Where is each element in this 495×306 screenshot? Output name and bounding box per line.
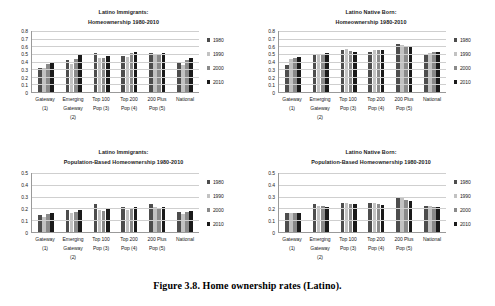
bar-group (335, 173, 363, 232)
bar-2010 (297, 213, 301, 232)
gridline (279, 54, 446, 55)
bar-2010 (189, 58, 193, 92)
chart-title: Latino Native Born: Homeownership 1980-2… (247, 0, 495, 27)
bar-2010 (353, 52, 357, 92)
gridline (279, 31, 446, 32)
bar-2000 (293, 58, 297, 92)
x-axis: Gateway(1)EmergingGateway(2)Top 100Pop (… (278, 235, 446, 261)
gridline (32, 220, 199, 221)
gridline (32, 39, 199, 40)
legend-item-1980: 1980 (454, 175, 494, 189)
legend-swatch-icon (207, 208, 210, 211)
y-axis-tick-label: 0.4 (268, 59, 275, 65)
chart-panel-latino-native-born-population-based: Latino Native Born: Population-Based Hom… (247, 140, 495, 278)
gridline (32, 69, 199, 70)
y-axis-tick-label: 0.2 (268, 75, 275, 81)
charts-grid: Latino Immigrants: Homeownership 1980-20… (0, 0, 495, 278)
x-axis-label-line: Gateway (31, 235, 59, 244)
bar-1990 (428, 206, 432, 232)
chart-title-line-2: Homeownership 1980-2010 (247, 17, 495, 27)
x-axis-label-line: (1) (278, 244, 306, 253)
x-axis-category-label: Gateway(1) (278, 235, 306, 261)
gridline (279, 77, 446, 78)
legend-swatch-icon (454, 194, 457, 197)
bar-1990 (345, 49, 349, 92)
plot-area (278, 31, 446, 93)
bar-1980 (38, 215, 42, 232)
x-axis-category-label: Top 200Pop (4) (115, 235, 143, 261)
gridline (279, 39, 446, 40)
bar-2000 (46, 64, 50, 92)
legend-swatch-icon (454, 80, 457, 83)
legend-item-1990: 1990 (207, 47, 247, 61)
plot-area (31, 31, 199, 93)
x-axis-label-line: (2) (306, 113, 334, 122)
chart-title: Latino Immigrants: Population-Based Home… (0, 140, 247, 167)
bar-1980 (313, 54, 317, 92)
bar-2010 (409, 201, 413, 232)
legend-swatch-icon (207, 180, 210, 183)
x-axis-category-label: Top 200Pop (4) (115, 95, 143, 121)
x-axis-label-line: Emerging (306, 235, 334, 244)
x-axis-label-line: Pop (5) (143, 244, 171, 253)
y-axis-tick-label: 0.5 (21, 170, 28, 176)
x-axis-label-line: Pop (4) (115, 104, 143, 113)
bars-area (279, 173, 446, 232)
legend-label: 1980 (213, 179, 224, 185)
bar-group (88, 173, 116, 232)
y-axis-tick-label: 0.1 (268, 218, 275, 224)
legend-swatch-icon (207, 80, 210, 83)
gridline (32, 197, 199, 198)
bar-1990 (428, 53, 432, 92)
gridline (32, 208, 199, 209)
gridline (32, 185, 199, 186)
x-axis-category-label: Gateway(1) (278, 95, 306, 121)
x-axis-category-label: Top 100Pop (3) (87, 235, 115, 261)
y-axis-tick-label: 0.4 (268, 182, 275, 188)
x-axis-category-label: 200 PlusPop (5) (390, 235, 418, 261)
legend-swatch-icon (454, 66, 457, 69)
y-axis: 0.80.70.60.50.40.30.20.10 (259, 31, 277, 93)
y-axis-tick-label: 0.6 (268, 44, 275, 50)
y-axis-tick-label: 0.7 (268, 36, 275, 42)
bar-group (115, 173, 143, 232)
legend-label: 2000 (213, 207, 224, 213)
legend-swatch-icon (207, 52, 210, 55)
x-axis-label-line: National (171, 95, 199, 104)
legend-label: 1990 (213, 193, 224, 199)
bar-1990 (70, 213, 74, 232)
bar-2010 (50, 213, 54, 232)
y-axis-tick-label: 0.7 (21, 36, 28, 42)
gridline (279, 84, 446, 85)
legend-label: 1990 (460, 193, 471, 199)
x-axis-category-label: Top 100Pop (3) (87, 95, 115, 121)
y-axis: 0.50.40.30.20.10 (12, 173, 30, 233)
y-axis-tick-label: 0.3 (268, 194, 275, 200)
x-axis-label-line: Top 100 (334, 235, 362, 244)
legend-label: 2010 (460, 79, 471, 85)
x-axis-category-label: 200 PlusPop (5) (143, 235, 171, 261)
x-axis-label-line: Pop (5) (390, 104, 418, 113)
x-axis-label-line: Emerging (59, 235, 87, 244)
bar-1980 (341, 203, 345, 233)
chart-title-line-1: Latino Native Born: (247, 7, 495, 17)
x-axis-label-line: Gateway (59, 104, 87, 113)
bar-1990 (317, 206, 321, 232)
bar-group (418, 173, 446, 232)
bar-2010 (162, 53, 166, 92)
bar-1990 (42, 217, 46, 232)
gridline (32, 54, 199, 55)
x-axis-label-line: National (171, 235, 199, 244)
bar-1980 (368, 52, 372, 92)
gridline (32, 77, 199, 78)
bar-2000 (130, 53, 134, 92)
y-axis-tick-label: 0.3 (21, 194, 28, 200)
x-axis-label-line: Pop (3) (87, 244, 115, 253)
gridline (32, 173, 199, 174)
x-axis-category-label: National (418, 235, 446, 261)
chart-title-line-1: Latino Native Born: (247, 147, 495, 157)
chart-legend: 1980199020002010 (454, 175, 494, 231)
legend-item-2000: 2000 (454, 61, 494, 75)
x-axis-label-line: 200 Plus (143, 235, 171, 244)
x-axis-category-label: National (418, 95, 446, 121)
